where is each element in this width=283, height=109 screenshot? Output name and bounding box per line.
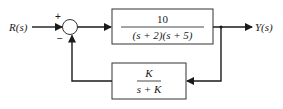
feedback-denominator: s + K [137,83,162,95]
minus-sign: − [57,33,63,44]
output-label: Y(s) [255,21,273,34]
feedback-path-out [72,36,112,82]
block-diagram: R(s) + − 10 (s + 2)(s + 5) Y(s) K s + K [0,0,283,109]
feedback-numerator: K [144,67,153,79]
input-label: R(s) [8,21,28,34]
plus-sign: + [55,11,61,22]
forward-denominator: (s + 2)(s + 5) [132,29,192,42]
feedback-block: K s + K [112,63,186,99]
forward-numerator: 10 [157,13,169,25]
summing-junction [63,20,78,35]
forward-block: 10 (s + 2)(s + 5) [112,9,213,44]
